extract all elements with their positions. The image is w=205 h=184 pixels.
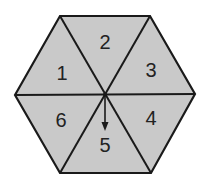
hexagon-spinner: 1 2 3 4 5 6 — [0, 0, 205, 184]
section-label-2: 2 — [99, 31, 110, 53]
section-label-1: 1 — [56, 62, 67, 84]
spinner-drawing: 1 2 3 4 5 6 — [0, 0, 205, 184]
section-label-6: 6 — [55, 109, 66, 131]
section-label-3: 3 — [145, 59, 156, 81]
section-label-5: 5 — [99, 134, 110, 156]
section-label-4: 4 — [145, 107, 156, 129]
